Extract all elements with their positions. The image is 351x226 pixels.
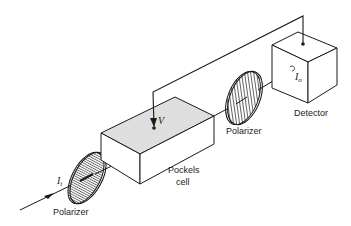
input-polarizer-label: Polarizer (53, 207, 89, 217)
output-polarizer (219, 66, 270, 129)
input-intensity-label: Ii (56, 175, 62, 188)
detector-label: Detector (294, 108, 328, 118)
pockels-cell-label-line1: Pockels (168, 165, 200, 175)
output-polarizer-label: Polarizer (226, 126, 262, 136)
detector (272, 32, 337, 103)
pockels-cell-label-line2: cell (176, 177, 190, 187)
pockels-cell-modulator-diagram: V Ii Io Polarizer Pockels cell Polarizer… (0, 0, 351, 226)
